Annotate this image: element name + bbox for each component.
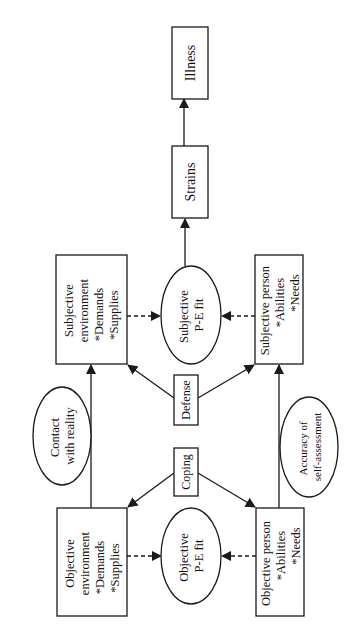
subjective-person-abilities: *Abilities xyxy=(273,278,287,327)
contact-with-reality-label-line1: Contact xyxy=(48,418,62,457)
edge-coping-to-objective-person xyxy=(198,473,255,507)
objective-environment-supplies: *Supplies xyxy=(108,543,122,592)
svg-text:Illness: Illness xyxy=(183,45,198,82)
pe-fit-diagram: Illness Strains Subjective environment *… xyxy=(0,0,361,636)
node-objective-pe-fit: Objective P-E fit xyxy=(161,508,221,604)
objective-environment-label-line2: environment xyxy=(78,531,92,595)
node-contact-with-reality: Contact with reality xyxy=(33,387,91,485)
objective-person-abilities: *Abilities xyxy=(274,531,288,580)
node-objective-person: Objective person *Abilities *Needs xyxy=(256,508,304,616)
node-strains: Strains xyxy=(172,146,208,218)
objective-pe-fit-label-line1: Objective xyxy=(177,533,191,582)
edge-coping-to-objective-env xyxy=(128,473,174,507)
node-defense: Defense xyxy=(174,375,198,425)
node-subjective-person: Subjective person *Abilities *Needs xyxy=(255,255,303,364)
svg-text:Coping: Coping xyxy=(179,454,193,489)
subjective-person-needs: *Needs xyxy=(288,274,302,312)
illness-label: Illness xyxy=(183,45,198,82)
node-subjective-environment: Subjective environment *Demands *Supplie… xyxy=(56,255,127,364)
objective-environment-demands: *Demands xyxy=(93,541,107,595)
objective-pe-fit-label-line2: P-E fit xyxy=(192,539,206,573)
node-subjective-pe-fit: Subjective P-E fit xyxy=(161,266,221,364)
node-coping: Coping xyxy=(174,448,198,496)
svg-text:Strains: Strains xyxy=(183,163,198,202)
subjective-pe-fit-label-line2: P-E fit xyxy=(192,298,206,332)
edge-defense-to-subjective-person xyxy=(198,365,254,398)
accuracy-label-line2: self-assessment xyxy=(311,413,323,481)
strains-label: Strains xyxy=(183,163,198,202)
subjective-environment-label-line2: environment xyxy=(77,278,91,342)
objective-person-label: Objective person xyxy=(259,520,273,606)
objective-environment-label-line1: Objective xyxy=(63,539,77,588)
svg-text:Contact with reality: Contact with reality xyxy=(48,407,77,465)
node-accuracy-self-assessment: Accuracy of self-assessment xyxy=(280,397,338,497)
node-illness: Illness xyxy=(172,27,208,99)
subjective-environment-supplies: *Supplies xyxy=(107,290,121,339)
subjective-environment-label-line1: Subjective xyxy=(62,284,76,337)
accuracy-label-line1: Accuracy of xyxy=(297,421,309,475)
node-objective-environment: Objective environment *Demands *Supplies xyxy=(57,508,127,616)
coping-label: Coping xyxy=(179,454,193,489)
objective-person-needs: *Needs xyxy=(289,527,303,565)
defense-label: Defense xyxy=(179,380,193,419)
subjective-pe-fit-label-line1: Subjective xyxy=(177,290,191,343)
subjective-person-label: Subjective person xyxy=(258,265,272,355)
svg-text:Defense: Defense xyxy=(179,380,193,419)
subjective-environment-demands: *Demands xyxy=(92,288,106,342)
contact-with-reality-label-line2: with reality xyxy=(63,407,77,465)
edge-defense-to-subjective-env xyxy=(128,365,174,398)
